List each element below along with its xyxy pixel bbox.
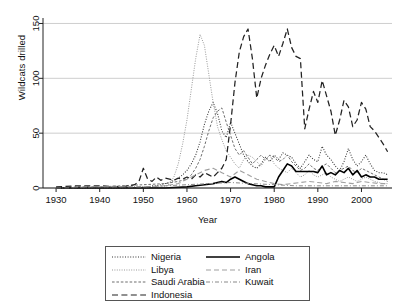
legend-item-saudi-arabia: Saudi Arabia bbox=[112, 276, 204, 289]
legend-item-indonesia: Indonesia bbox=[112, 289, 204, 302]
svg-text:1930: 1930 bbox=[46, 194, 67, 205]
legend-label-libya: Libya bbox=[151, 265, 174, 275]
legend-label-indonesia: Indonesia bbox=[151, 290, 192, 300]
chart-legend: Nigeria Angola Libya Iran Saudi Arabia K… bbox=[105, 246, 310, 301]
x-axis-ticks: 19301940195019601970198019902000 bbox=[46, 188, 373, 205]
gridlines bbox=[43, 23, 392, 188]
legend-item-kuwait: Kuwait bbox=[206, 276, 304, 289]
libya-line-key bbox=[112, 265, 146, 275]
legend-label-saudi-arabia: Saudi Arabia bbox=[151, 277, 205, 287]
kuwait-line-key bbox=[206, 277, 240, 287]
svg-text:1990: 1990 bbox=[307, 194, 328, 205]
chart-figure: Wildcats drilled Year 050100150 19301940… bbox=[0, 0, 415, 306]
y-axis-ticks: 050100150 bbox=[30, 16, 43, 191]
svg-text:100: 100 bbox=[30, 70, 41, 86]
svg-text:1950: 1950 bbox=[133, 194, 154, 205]
legend-item-libya: Libya bbox=[112, 264, 204, 277]
series-line-nigeria bbox=[56, 102, 388, 188]
legend-label-angola: Angola bbox=[245, 252, 275, 262]
nigeria-line-key bbox=[112, 252, 146, 262]
indonesia-line-key bbox=[112, 290, 146, 300]
legend-spacer bbox=[206, 289, 304, 302]
legend-label-nigeria: Nigeria bbox=[151, 252, 181, 262]
data-series-group bbox=[56, 29, 388, 188]
svg-text:1970: 1970 bbox=[220, 194, 241, 205]
svg-text:2000: 2000 bbox=[351, 194, 372, 205]
svg-text:0: 0 bbox=[30, 185, 41, 190]
svg-text:1960: 1960 bbox=[176, 194, 197, 205]
legend-item-nigeria: Nigeria bbox=[112, 251, 204, 264]
svg-text:1980: 1980 bbox=[264, 194, 285, 205]
series-line-libya bbox=[56, 34, 388, 188]
legend-label-iran: Iran bbox=[245, 265, 261, 275]
svg-text:150: 150 bbox=[30, 16, 41, 32]
angola-line-key bbox=[206, 252, 240, 262]
legend-label-kuwait: Kuwait bbox=[245, 277, 274, 287]
svg-text:1940: 1940 bbox=[89, 194, 110, 205]
legend-item-iran: Iran bbox=[206, 264, 304, 277]
legend-item-angola: Angola bbox=[206, 251, 304, 264]
saudi-arabia-line-key bbox=[112, 277, 146, 287]
svg-text:50: 50 bbox=[30, 128, 41, 139]
series-line-saudi-arabia bbox=[56, 108, 388, 188]
iran-line-key bbox=[206, 265, 240, 275]
